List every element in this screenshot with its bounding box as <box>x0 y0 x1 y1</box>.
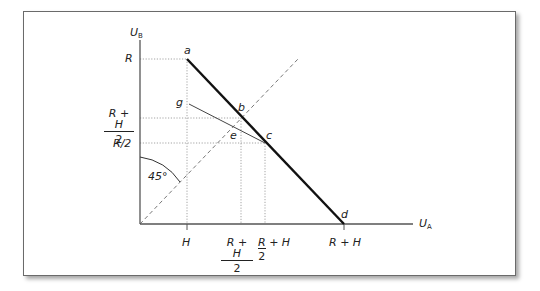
guide-lines <box>140 59 265 224</box>
point-e-label: e <box>230 130 237 141</box>
y-tick-R-over-2: R/2 <box>113 138 131 149</box>
x-tick-H: H <box>182 237 190 248</box>
point-c-label: c <box>266 130 272 141</box>
point-b-label: b <box>238 102 245 113</box>
x-tick-RH: R + H <box>329 237 361 248</box>
dashed-45-line <box>140 59 298 224</box>
line-g-c <box>189 104 265 143</box>
y-axis-label: UB <box>130 27 143 40</box>
x-axis-label: UA <box>419 218 432 231</box>
x-tick-RH-over-2: R + H 2 <box>221 237 253 274</box>
y-tick-R: R <box>125 53 133 64</box>
point-a-label: a <box>184 45 191 56</box>
x-tick-R-over-2-plus-H: R 2 + H <box>258 237 290 262</box>
point-g-label: g <box>176 97 183 108</box>
angle-45-label: 45° <box>148 171 168 182</box>
point-d-label: d <box>341 209 348 220</box>
